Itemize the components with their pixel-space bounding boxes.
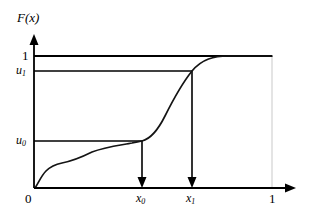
x-tick-label-zero: 0 [25, 192, 32, 205]
y-tick-label-u0: u0 [16, 134, 26, 148]
y-axis-title: F(x) [17, 11, 39, 24]
y-tick-label-u1: u1 [16, 64, 26, 78]
drop-arrowhead-x1 [188, 177, 197, 188]
y-tick-label-one: 1 [22, 49, 29, 62]
y-tick-label-u0-subscript: 0 [22, 139, 26, 148]
drop-arrowhead-x0 [138, 177, 147, 188]
cdf-figure: F(x) 1 u1 u0 0 x0 x1 1 [0, 0, 312, 220]
x-tick-label-x0: x0 [136, 192, 145, 206]
x-tick-label-one: 1 [269, 192, 276, 205]
cdf-curve [35, 56, 272, 188]
x-tick-label-x1: x1 [186, 192, 195, 206]
y-axis-arrowhead [30, 34, 39, 45]
x-tick-label-x1-subscript: 1 [191, 197, 195, 206]
plot-canvas [0, 0, 312, 220]
x-axis-arrowhead [285, 184, 296, 193]
x-tick-label-x0-subscript: 0 [141, 197, 145, 206]
y-tick-label-u1-subscript: 1 [22, 69, 26, 78]
